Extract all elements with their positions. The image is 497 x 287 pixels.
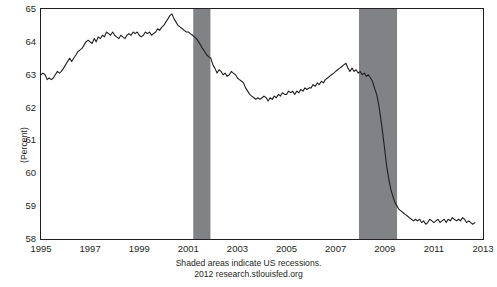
x-tick-2001: 2001 <box>168 243 208 254</box>
series-line-civilian-labor-force-participation-rate <box>41 14 475 224</box>
x-tick-2011: 2011 <box>414 243 454 254</box>
y-tick-64: 64 <box>2 36 36 47</box>
x-tick-2013: 2013 <box>463 243 497 254</box>
y-tick-65: 65 <box>2 3 36 14</box>
recession-band-2 <box>359 9 397 239</box>
recession-band-1 <box>193 9 210 239</box>
recession-shading <box>193 9 397 239</box>
x-tick-2005: 2005 <box>267 243 307 254</box>
x-tick-2003: 2003 <box>217 243 257 254</box>
y-tick-59: 59 <box>2 200 36 211</box>
x-tick-1999: 1999 <box>119 243 159 254</box>
caption-line-source: 2012 research.stlouisfed.org <box>0 269 497 280</box>
x-tick-1995: 1995 <box>21 243 61 254</box>
x-tick-2009: 2009 <box>365 243 405 254</box>
chart-container: 5859606162636465 (Percent) Shaded areas … <box>0 0 497 287</box>
chart-caption: Shaded areas indicate US recessions. 201… <box>0 258 497 280</box>
caption-line-recessions: Shaded areas indicate US recessions. <box>0 258 497 269</box>
x-tick-2007: 2007 <box>316 243 356 254</box>
y-axis-label: (Percent) <box>19 105 29 185</box>
plot-svg <box>41 9 483 239</box>
y-tick-63: 63 <box>2 69 36 80</box>
plot-area <box>40 8 484 240</box>
x-tick-1997: 1997 <box>70 243 110 254</box>
